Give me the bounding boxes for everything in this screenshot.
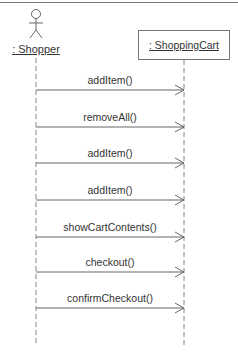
message-label: confirmCheckout() (67, 292, 153, 304)
message-label: addItem() (88, 74, 133, 86)
actor-stick-figure-icon (29, 10, 43, 39)
message-label: addItem() (88, 147, 133, 159)
message-label: removeAll() (83, 111, 137, 123)
message-label: checkout() (85, 256, 134, 268)
actor-label-shopper: : Shopper (12, 43, 60, 55)
object-box-shoppingcart: : ShoppingCart (138, 30, 230, 60)
message-label: showCartContents() (63, 221, 156, 233)
object-label-shoppingcart: : ShoppingCart (149, 39, 219, 51)
message-label: addItem() (88, 184, 133, 196)
